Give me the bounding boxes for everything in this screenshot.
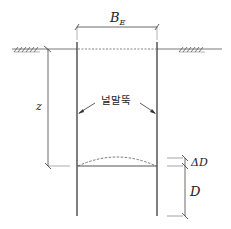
sheet-pile-label: 널말뚝 [101, 94, 131, 106]
arrowhead-left-icon [78, 109, 84, 114]
heave-dashed-arc [78, 157, 156, 166]
width-dimension: BE [75, 10, 159, 40]
soil-hatching-left-icon [14, 47, 40, 52]
embedment-dimension: ΔD D [167, 155, 208, 219]
sheet-pile-annotation: 널말뚝 [78, 94, 156, 114]
arrowhead-right-icon [150, 109, 156, 114]
depth-z-dimension: z [35, 46, 70, 169]
soil-hatching-right-icon [179, 47, 205, 52]
depth-z-label: z [35, 100, 42, 113]
ground-surface-right [157, 47, 222, 52]
width-label: BE [109, 10, 126, 27]
sheet-pile-diagram: BE z 널말뚝 ΔD D [0, 0, 231, 229]
delta-d-label: ΔD [190, 156, 208, 169]
ground-surface-left [12, 47, 77, 52]
embedment-d-label: D [189, 184, 201, 199]
